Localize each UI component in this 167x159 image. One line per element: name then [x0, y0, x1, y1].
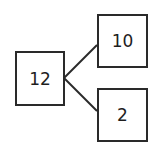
part-box-top: 10 [97, 14, 148, 68]
part-value-bottom: 2 [117, 105, 128, 125]
whole-value: 12 [29, 69, 51, 89]
connector-top [64, 45, 97, 78]
part-value-top: 10 [112, 31, 134, 51]
part-box-bottom: 2 [97, 88, 148, 142]
connector-bottom [64, 78, 97, 111]
whole-box: 12 [15, 51, 65, 106]
